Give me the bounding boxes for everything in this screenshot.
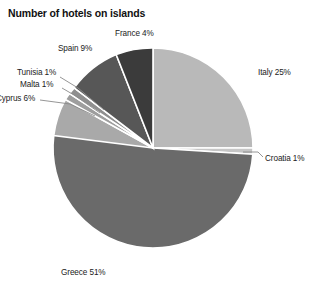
pie-label-malta: Malta 1%: [20, 80, 53, 90]
pie-chart-figure: Number of hotels on islands Italy 25% Cr…: [0, 0, 319, 292]
pie-label-spain: Spain 9%: [58, 44, 92, 54]
pie-label-greece: Greece 51%: [61, 268, 106, 278]
pie-label-france: France 4%: [115, 29, 154, 39]
pie-slice-italy[interactable]: [153, 48, 253, 148]
pie-chart-canvas: [0, 0, 319, 292]
pie-label-croatia: Croatia 1%: [265, 154, 305, 164]
pie-label-cyprus: Cyprus 6%: [0, 94, 35, 104]
pie-label-tunisia: Tunisia 1%: [17, 68, 56, 78]
pie-label-italy: Italy 25%: [258, 68, 291, 78]
